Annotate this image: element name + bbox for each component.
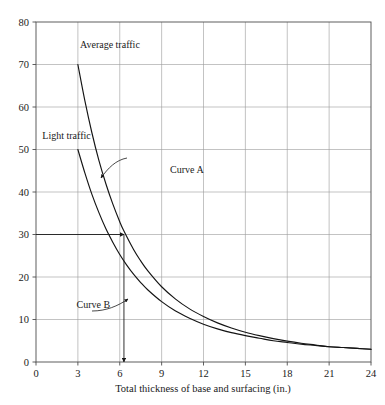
y-tick-label: 20	[19, 272, 30, 283]
x-tick-label: 0	[33, 368, 38, 379]
y-tick-labels: 01020304050607080	[19, 17, 30, 368]
y-tick-label: 50	[19, 144, 30, 155]
curve-b-label: Curve B	[76, 299, 110, 310]
y-tick-label: 70	[19, 59, 30, 70]
x-tick-label: 9	[159, 368, 164, 379]
y-tick-label: 10	[19, 314, 30, 325]
y-tick-label: 40	[19, 187, 30, 198]
curve-a-label: Curve A	[170, 164, 204, 175]
y-tick-label: 60	[19, 102, 30, 113]
x-tick-label: 3	[75, 368, 80, 379]
chart-figure: 03691215182124 01020304050607080 Average…	[0, 0, 385, 405]
x-tick-label: 12	[198, 368, 209, 379]
x-tick-label: 24	[366, 368, 377, 379]
x-axis-title: Total thickness of base and surfacing (i…	[115, 383, 291, 395]
y-tick-label: 30	[19, 229, 30, 240]
light-traffic-label: Light traffic	[42, 130, 91, 141]
y-tick-label: 80	[19, 17, 30, 28]
x-tick-label: 18	[282, 368, 293, 379]
y-tick-label: 0	[24, 357, 29, 368]
x-tick-label: 21	[324, 368, 335, 379]
figure-background	[0, 0, 385, 405]
x-tick-label: 6	[117, 368, 122, 379]
chart-canvas: 03691215182124 01020304050607080 Average…	[0, 0, 385, 405]
average-traffic-label: Average traffic	[80, 39, 140, 50]
x-tick-label: 15	[240, 368, 251, 379]
